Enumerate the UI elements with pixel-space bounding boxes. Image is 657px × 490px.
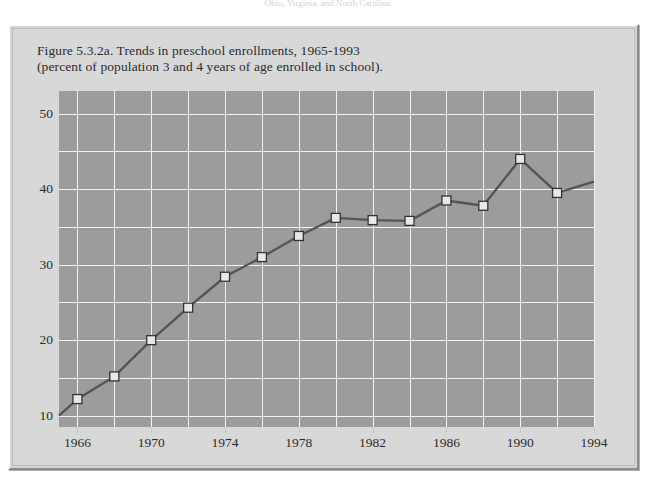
x-axis-tick-label: 1982 bbox=[359, 435, 386, 451]
series-data-point-marker bbox=[442, 196, 451, 205]
series-data-point-marker bbox=[221, 272, 230, 281]
x-axis-tick-mark bbox=[225, 427, 226, 433]
chart-series-layer bbox=[59, 91, 594, 427]
series-data-point-marker bbox=[479, 201, 488, 210]
x-axis-tick-label: 1974 bbox=[212, 435, 239, 451]
x-axis-tick-label: 1986 bbox=[433, 435, 460, 451]
y-axis-tick-label: 40 bbox=[40, 181, 54, 197]
y-axis-tick-label: 20 bbox=[40, 332, 54, 348]
series-data-point-marker bbox=[257, 253, 266, 262]
series-line bbox=[59, 159, 594, 416]
page-top-caption: Ohio, Virginia, and North Carolina. bbox=[0, 0, 657, 12]
figure-caption-line-2: (percent of population 3 and 4 years of … bbox=[37, 59, 597, 75]
x-axis-tick-label: 1966 bbox=[64, 435, 91, 451]
x-axis-tick-mark bbox=[520, 427, 521, 433]
x-axis-tick-label: 1994 bbox=[581, 435, 608, 451]
chart-plot-wrapper: 1020304050 19661970197419781982198619901… bbox=[59, 91, 594, 427]
x-axis-tick-mark bbox=[77, 427, 78, 433]
chart-y-axis-labels: 1020304050 bbox=[13, 91, 53, 427]
series-data-point-marker bbox=[73, 395, 82, 404]
series-data-point-marker bbox=[553, 188, 562, 197]
y-axis-tick-label: 30 bbox=[40, 257, 54, 273]
y-axis-tick-label: 50 bbox=[40, 106, 54, 122]
series-data-point-marker bbox=[110, 372, 119, 381]
series-data-point-marker bbox=[147, 336, 156, 345]
x-axis-tick-mark bbox=[594, 427, 595, 433]
x-axis-tick-mark bbox=[299, 427, 300, 433]
chart-x-axis-labels: 19661970197419781982198619901994 bbox=[59, 427, 594, 457]
figure-panel: Figure 5.3.2a. Trends in preschool enrol… bbox=[8, 24, 639, 470]
series-data-point-marker bbox=[331, 213, 340, 222]
x-axis-tick-mark bbox=[151, 427, 152, 433]
figure-caption-line-1: Figure 5.3.2a. Trends in preschool enrol… bbox=[37, 43, 597, 59]
x-axis-tick-label: 1970 bbox=[138, 435, 165, 451]
x-axis-tick-label: 1978 bbox=[285, 435, 312, 451]
series-data-point-marker bbox=[294, 231, 303, 240]
series-data-point-marker bbox=[516, 154, 525, 163]
figure-caption: Figure 5.3.2a. Trends in preschool enrol… bbox=[37, 43, 597, 75]
gridline-vertical bbox=[594, 91, 595, 427]
x-axis-tick-mark bbox=[446, 427, 447, 433]
figure-inner-frame: Figure 5.3.2a. Trends in preschool enrol… bbox=[12, 28, 635, 466]
series-data-point-marker bbox=[405, 216, 414, 225]
x-axis-tick-label: 1990 bbox=[507, 435, 534, 451]
series-data-point-marker bbox=[368, 216, 377, 225]
y-axis-tick-label: 10 bbox=[40, 408, 54, 424]
x-axis-tick-mark bbox=[373, 427, 374, 433]
series-data-point-marker bbox=[184, 303, 193, 312]
